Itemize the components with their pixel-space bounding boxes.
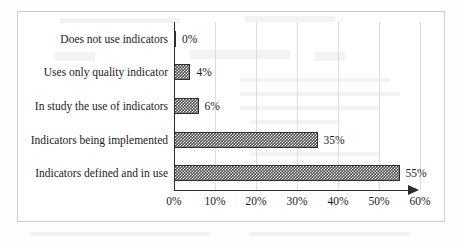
category-label: In study the use of indicators xyxy=(22,98,168,114)
x-tick-label: 30% xyxy=(277,194,317,209)
category-label: Does not use indicators xyxy=(22,31,168,47)
x-tick-label: 50% xyxy=(359,194,399,209)
scan-bleed-mark xyxy=(190,50,290,59)
scan-bleed-mark xyxy=(240,106,380,110)
scan-bleed-mark xyxy=(250,120,340,124)
bar-1 xyxy=(174,31,176,47)
scan-bleed-mark xyxy=(250,152,380,156)
value-label: 35% xyxy=(324,132,345,148)
scan-bleed-mark xyxy=(60,18,180,23)
category-label: Uses only quality indicator xyxy=(22,64,168,80)
category-label: Indicators defined and in use xyxy=(22,165,168,181)
scan-bleed-mark xyxy=(240,92,400,96)
value-label: 4% xyxy=(196,64,211,80)
scan-bleed-mark xyxy=(30,232,210,236)
scan-bleed-mark xyxy=(315,52,345,61)
bar-4 xyxy=(174,132,318,148)
x-tick-label: 60% xyxy=(400,194,440,209)
scan-bleed-mark xyxy=(245,16,335,22)
x-tick-label: 10% xyxy=(195,194,235,209)
x-axis-line xyxy=(174,190,410,191)
x-tick-label: 20% xyxy=(236,194,276,209)
scan-bleed-mark xyxy=(240,78,390,82)
value-label: 55% xyxy=(406,165,427,181)
scan-bleed-mark xyxy=(250,232,410,236)
x-tick-label: 40% xyxy=(318,194,358,209)
scan-bleed-mark xyxy=(55,52,95,61)
figure-canvas: Does not use indicators0%Uses only quali… xyxy=(0,0,462,242)
bar-5 xyxy=(174,165,400,181)
value-label: 0% xyxy=(182,31,197,47)
bar-2 xyxy=(174,64,190,80)
bar-3 xyxy=(174,98,199,114)
value-label: 6% xyxy=(205,98,220,114)
x-tick-label: 0% xyxy=(154,194,194,209)
category-label: Indicators being implemented xyxy=(22,132,168,148)
